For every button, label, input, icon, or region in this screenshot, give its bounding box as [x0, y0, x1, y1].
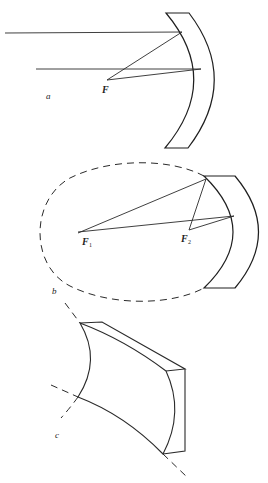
parabolic-mirror-a	[165, 13, 214, 148]
ray-f1-to-upper-reflection	[78, 179, 206, 233]
focus-label-f2: F	[180, 233, 188, 244]
ellipse-outline-dashed	[40, 163, 204, 302]
panel-a: F a	[5, 13, 214, 148]
focus-label-f: F	[101, 84, 109, 95]
panel-label-a: a	[46, 91, 51, 101]
panel-c: c	[51, 303, 188, 478]
panel-label-b: b	[52, 286, 57, 296]
curve-extension-top-dashed	[65, 303, 80, 323]
curve-extension-bottom-dashed	[61, 397, 78, 418]
elliptical-mirror-b	[204, 176, 259, 288]
ray-upper-reflection-to-f2	[189, 179, 206, 230]
axis-line-right-dashed	[163, 454, 188, 478]
focus-label-f1-subscript: 1	[89, 242, 92, 248]
focus-label-f2-subscript: 2	[188, 239, 191, 245]
panel-b: F 1 F 2 b	[40, 163, 259, 302]
panel-label-c: c	[55, 430, 59, 440]
mirror-diagram-figure: F a F 1 F 2 b c	[0, 0, 268, 483]
axis-line-left-dashed	[51, 385, 78, 397]
focus-label-f1: F	[81, 236, 89, 247]
curved-mirror-side-face	[163, 369, 185, 454]
curved-mirror-front-face	[78, 323, 175, 454]
ray-f1-to-lower-reflection	[78, 216, 234, 232]
incident-ray-upper	[5, 32, 182, 33]
